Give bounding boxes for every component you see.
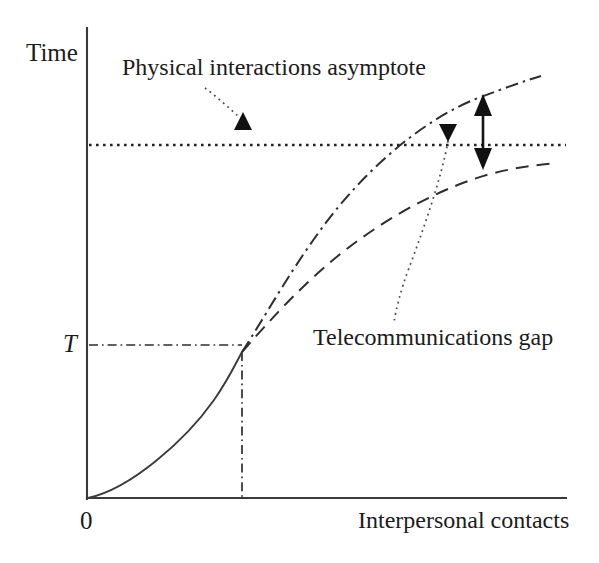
x-axis-label: Interpersonal contacts	[358, 508, 569, 532]
asymptote-leader-line	[205, 88, 239, 117]
gap-measure-arrow-icon	[474, 94, 492, 170]
diagram-canvas	[0, 0, 599, 563]
initial-growth-curve	[88, 352, 242, 498]
physical-interactions-curve	[242, 76, 541, 352]
gap-leader-line	[394, 141, 448, 322]
asymptote-annotation-label: Physical interactions asymptote	[122, 55, 426, 79]
gap-pointer-icon	[439, 124, 457, 142]
y-axis-label: Time	[26, 40, 78, 65]
figure-container: Time 0 T Interpersonal contacts Physical…	[0, 0, 599, 563]
origin-label: 0	[80, 508, 93, 533]
threshold-label: T	[63, 331, 77, 356]
gap-annotation-label: Telecommunications gap	[313, 325, 553, 349]
